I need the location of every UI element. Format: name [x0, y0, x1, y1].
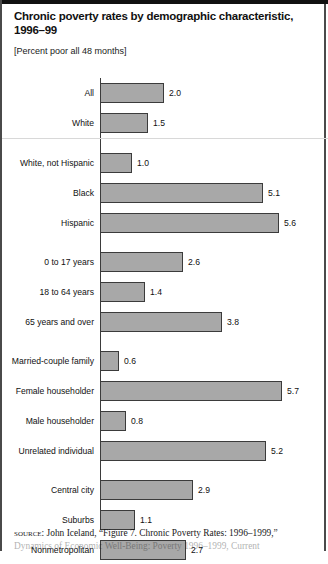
- bar-row[interactable]: Central city2.9: [2, 475, 328, 505]
- bar-group: 0 to 17 years2.618 to 64 years1.465 year…: [2, 247, 328, 337]
- bar-category-label: Black: [2, 178, 94, 208]
- bar-group: All2.0White1.5: [2, 78, 328, 139]
- source-line-2: Dynamics of Economic Well-Being: Poverty…: [14, 540, 318, 553]
- bar-row[interactable]: Black5.1: [2, 178, 328, 208]
- source-kicker: source:: [14, 528, 44, 538]
- group-gap: [2, 238, 328, 247]
- bar-category-label: 0 to 17 years: [2, 247, 94, 277]
- source-line-1: John Iceland, “Figure 7. Chronic Poverty…: [47, 528, 278, 538]
- bar-row[interactable]: Hispanic5.6: [2, 208, 328, 238]
- bar-track: 5.2: [100, 436, 324, 466]
- bar-category-label: Unrelated individual: [2, 436, 94, 466]
- bar-value-label: 5.6: [284, 208, 296, 238]
- bar-row[interactable]: 18 to 64 years1.4: [2, 277, 328, 307]
- group-gap: [2, 466, 328, 475]
- bar-category-label: Male householder: [2, 406, 94, 436]
- bar-group: Married-couple family0.6Female household…: [2, 346, 328, 466]
- bar-category-label: White, not Hispanic: [2, 148, 94, 178]
- bar-track: 1.4: [100, 277, 324, 307]
- bar[interactable]: [100, 480, 193, 500]
- bar[interactable]: [100, 153, 132, 173]
- bar-row[interactable]: Married-couple family0.6: [2, 346, 328, 376]
- bar-group: White, not Hispanic1.0Black5.1Hispanic5.…: [2, 148, 328, 238]
- bar-category-label: 65 years and over: [2, 307, 94, 337]
- bar-track: 5.6: [100, 208, 324, 238]
- bar[interactable]: [100, 282, 145, 302]
- figure-header: Chronic poverty rates by demographic cha…: [14, 10, 314, 57]
- top-rule: [2, 0, 328, 4]
- group-gap: [2, 337, 328, 346]
- bar[interactable]: [100, 113, 148, 133]
- page-title: Chronic poverty rates by demographic cha…: [14, 10, 314, 37]
- bar-value-label: 1.5: [153, 108, 165, 138]
- source-note: source: John Iceland, “Figure 7. Chronic…: [14, 527, 318, 552]
- bar-category-label: All: [2, 78, 94, 108]
- bar-value-label: 2.6: [188, 247, 200, 277]
- bar[interactable]: [100, 312, 222, 332]
- bar-category-label: White: [2, 108, 94, 138]
- bar-category-label: Hispanic: [2, 208, 94, 238]
- bar-value-label: 5.1: [268, 178, 280, 208]
- bar-value-label: 1.4: [150, 277, 162, 307]
- bar-track: 1.5: [100, 108, 324, 138]
- bar-row[interactable]: 0 to 17 years2.6: [2, 247, 328, 277]
- bar-category-label: Married-couple family: [2, 346, 94, 376]
- bar-track: 3.8: [100, 307, 324, 337]
- bar-category-label: Female householder: [2, 376, 94, 406]
- bar-track: 0.8: [100, 406, 324, 436]
- bar-track: 5.1: [100, 178, 324, 208]
- bar-track: 2.0: [100, 78, 324, 108]
- bar-row[interactable]: White, not Hispanic1.0: [2, 148, 328, 178]
- bar-track: 5.7: [100, 376, 324, 406]
- bar[interactable]: [100, 83, 164, 103]
- bar[interactable]: [100, 351, 119, 371]
- bar-value-label: 0.6: [124, 346, 136, 376]
- bar-category-label: Central city: [2, 475, 94, 505]
- bar-row[interactable]: 65 years and over3.8: [2, 307, 328, 337]
- bar-value-label: 5.2: [271, 436, 283, 466]
- bar-value-label: 3.8: [227, 307, 239, 337]
- bar-chart: All2.0White1.5White, not Hispanic1.0Blac…: [2, 78, 328, 521]
- bar-track: 2.9: [100, 475, 324, 505]
- bar-track: 0.6: [100, 346, 324, 376]
- bar-row[interactable]: Male householder0.8: [2, 406, 328, 436]
- bar-value-label: 2.0: [169, 78, 181, 108]
- bar[interactable]: [100, 183, 263, 203]
- bar-value-label: 1.0: [137, 148, 149, 178]
- figure-subtitle: [Percent poor all 48 months]: [14, 46, 314, 57]
- bar-value-label: 2.9: [198, 475, 210, 505]
- bar[interactable]: [100, 213, 279, 233]
- bar-track: 1.0: [100, 148, 324, 178]
- bar[interactable]: [100, 381, 282, 401]
- bar-category-label: 18 to 64 years: [2, 277, 94, 307]
- bar[interactable]: [100, 441, 266, 461]
- bar-value-label: 5.7: [287, 376, 299, 406]
- bar[interactable]: [100, 411, 126, 431]
- bar-row[interactable]: Unrelated individual5.2: [2, 436, 328, 466]
- bar-track: 2.6: [100, 247, 324, 277]
- bar-value-label: 0.8: [131, 406, 143, 436]
- bar-row[interactable]: Female householder5.7: [2, 376, 328, 406]
- bar-row[interactable]: All2.0: [2, 78, 328, 108]
- group-gap: [2, 139, 328, 148]
- bar-row[interactable]: White1.5: [2, 108, 328, 138]
- bar[interactable]: [100, 252, 183, 272]
